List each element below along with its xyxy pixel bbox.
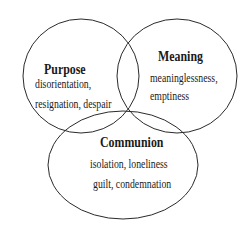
communion-item: guilt, condemnation: [93, 179, 171, 191]
meaning-title: Meaning: [158, 50, 203, 64]
purpose-item: resignation, despair: [35, 99, 112, 111]
communion-title: Communion: [100, 136, 163, 150]
venn-diagram: [0, 0, 250, 231]
meaning-item: emptiness: [150, 91, 189, 103]
purpose-item: disorientation,: [35, 79, 91, 91]
purpose-title: Purpose: [44, 63, 86, 77]
meaning-item: meaninglessness,: [150, 73, 218, 85]
communion-item: isolation, loneliness: [90, 159, 168, 171]
